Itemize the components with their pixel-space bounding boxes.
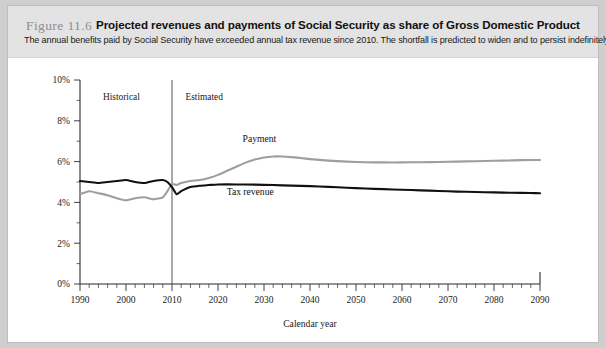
x-axis-tick-label: 2070 [439,295,458,305]
annotation-estimated: Estimated [185,92,223,102]
series-label-payment: Payment [243,133,277,144]
series-line-tax-revenue [80,180,540,194]
x-axis-tick-label: 2000 [117,295,136,305]
x-axis-tick-label: 2050 [347,295,366,305]
series-label-tax-revenue: Tax revenue [227,186,274,197]
y-axis-tick-label: 6% [57,157,70,167]
figure-title: Projected revenues and payments of Socia… [96,18,580,31]
y-axis-tick-label: 10% [53,75,71,85]
y-axis-ticks [74,80,80,284]
x-axis-labels: 1990200020102020203020402050206020702080… [71,295,550,305]
x-axis-ticks [80,284,540,291]
figure-subtitle: The annual benefits paid by Social Secur… [24,35,588,45]
y-axis-tick-label: 8% [57,116,70,126]
x-axis-tick-label: 2020 [209,295,228,305]
figure-header: Figure 11.6 Projected revenues and payme… [8,6,598,58]
y-axis-tick-label: 0% [57,279,70,289]
x-axis-tick-label: 2030 [255,295,274,305]
x-axis-title: Calendar year [283,318,337,329]
line-chart: 0%2%4%6%8%10% 19902000201020202030204020… [8,58,598,342]
y-axis-tick-label: 4% [57,198,70,208]
x-axis-tick-label: 2090 [531,295,550,305]
figure-number: Figure 11.6 [26,18,92,34]
x-axis-tick-label: 1990 [71,295,90,305]
x-axis-tick-label: 2060 [393,295,412,305]
figure-card: Figure 11.6 Projected revenues and payme… [8,6,598,342]
x-axis-tick-label: 2080 [485,295,504,305]
y-axis-tick-label: 2% [57,239,70,249]
series-line-payment [80,156,540,200]
x-axis-tick-label: 2010 [163,295,182,305]
annotation-historical: Historical [103,92,140,102]
y-axis-labels: 0%2%4%6%8%10% [53,75,71,289]
chart-area: 0%2%4%6%8%10% 19902000201020202030204020… [8,58,598,342]
x-axis-tick-label: 2040 [301,295,320,305]
figure-page: Figure 11.6 Projected revenues and payme… [0,0,606,348]
